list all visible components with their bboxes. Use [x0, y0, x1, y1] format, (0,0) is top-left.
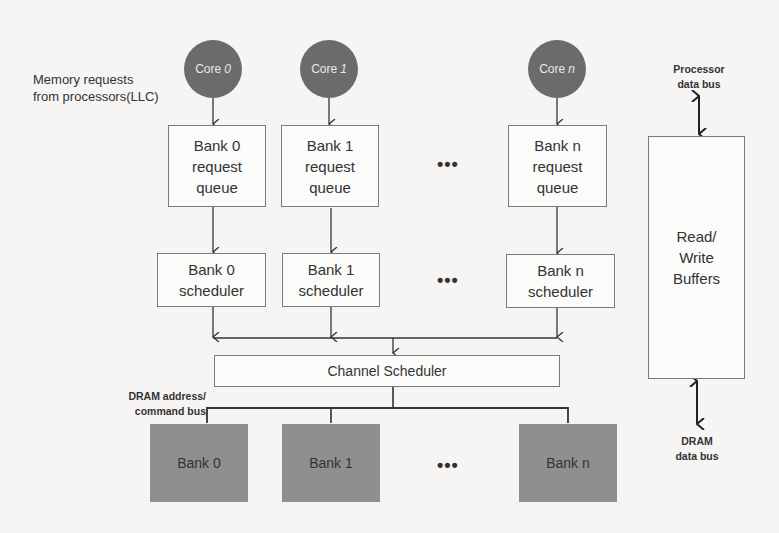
- scheduler-line: Bank 1: [308, 259, 355, 280]
- scheduler-line: scheduler: [528, 281, 593, 302]
- processor-data-bus-label: Processor data bus: [659, 62, 739, 92]
- dram-bus-line-2: data bus: [657, 449, 737, 464]
- memory-requests-line-1: Memory requests: [33, 71, 159, 88]
- dram-address-bus-label: DRAM address/ command bus: [116, 389, 206, 419]
- queue-line: queue: [309, 177, 351, 198]
- scheduler-line: scheduler: [179, 280, 244, 301]
- core-n-node: Coren: [528, 40, 586, 98]
- core-label: Core: [195, 62, 221, 76]
- dram-bank-label: Bank n: [546, 455, 590, 471]
- memory-requests-label: Memory requests from processors(LLC): [33, 71, 159, 105]
- dram-bank-1: Bank 1: [282, 424, 380, 502]
- processor-bus-line-1: Processor: [659, 62, 739, 77]
- scheduler-line: Bank 0: [188, 259, 235, 280]
- scheduler-ellipsis: •••: [437, 270, 459, 291]
- bank-n-request-queue: Bank n request queue: [508, 125, 607, 207]
- memory-requests-line-2: from processors(LLC): [33, 88, 159, 105]
- channel-scheduler-label: Channel Scheduler: [327, 361, 446, 382]
- queue-line: queue: [537, 177, 579, 198]
- bank-0-request-queue: Bank 0 request queue: [168, 125, 266, 207]
- queue-line: request: [192, 156, 242, 177]
- bank-1-scheduler: Bank 1 scheduler: [282, 253, 380, 307]
- scheduler-line: Bank n: [537, 260, 584, 281]
- read-write-buffers: Read/ Write Buffers: [648, 136, 745, 379]
- queue-ellipsis: •••: [437, 154, 459, 175]
- core-label: Core: [539, 62, 565, 76]
- core-1-node: Core1: [300, 40, 358, 98]
- core-index: n: [568, 62, 575, 76]
- address-bus-line-2: command bus: [116, 404, 206, 419]
- queue-line: Bank 1: [307, 135, 354, 156]
- bank-n-scheduler: Bank n scheduler: [506, 254, 615, 308]
- queue-line: queue: [196, 177, 238, 198]
- dram-bank-ellipsis: •••: [437, 455, 459, 476]
- dram-data-bus-label: DRAM data bus: [657, 434, 737, 464]
- processor-bus-line-2: data bus: [659, 77, 739, 92]
- bank-0-scheduler: Bank 0 scheduler: [157, 253, 266, 307]
- dram-bank-label: Bank 1: [309, 455, 353, 471]
- buffers-line: Write: [679, 247, 714, 268]
- buffers-line: Buffers: [673, 268, 720, 289]
- buffers-line: Read/: [676, 226, 716, 247]
- queue-line: request: [305, 156, 355, 177]
- address-bus-line-1: DRAM address/: [116, 389, 206, 404]
- dram-bus-line-1: DRAM: [657, 434, 737, 449]
- queue-line: request: [532, 156, 582, 177]
- scheduler-line: scheduler: [298, 280, 363, 301]
- channel-scheduler: Channel Scheduler: [214, 355, 560, 387]
- core-0-node: Core0: [184, 40, 242, 98]
- bank-1-request-queue: Bank 1 request queue: [281, 125, 379, 207]
- dram-bank-label: Bank 0: [177, 455, 221, 471]
- core-index: 1: [340, 62, 347, 76]
- queue-line: Bank n: [534, 135, 581, 156]
- core-label: Core: [311, 62, 337, 76]
- queue-line: Bank 0: [194, 135, 241, 156]
- core-index: 0: [224, 62, 231, 76]
- dram-bank-n: Bank n: [519, 424, 617, 502]
- dram-bank-0: Bank 0: [150, 424, 248, 502]
